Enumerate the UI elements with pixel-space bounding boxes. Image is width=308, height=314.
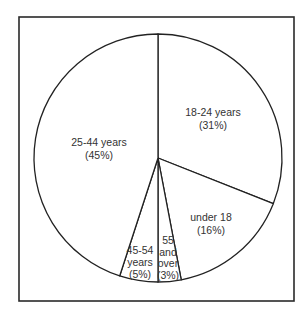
slice-label-45-54-years: 45-54years(5%) — [127, 244, 154, 280]
pie-slices — [34, 34, 282, 282]
pie-chart: 18-24 years(31%)under 18(16%)55andover(3… — [0, 0, 308, 314]
